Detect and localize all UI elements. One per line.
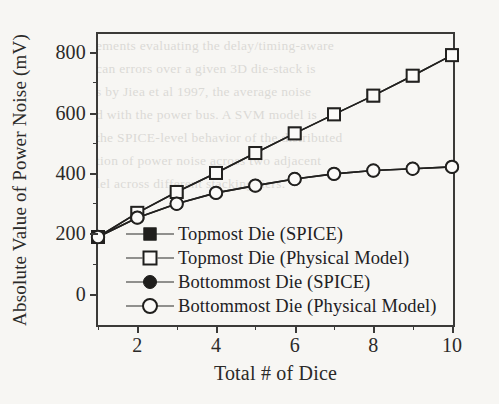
y-axis-tick: [90, 173, 98, 175]
y-axis-tick-label: 200: [55, 222, 86, 245]
data-point-marker: [249, 147, 261, 159]
x-axis-tick-label: 6: [290, 334, 300, 357]
legend-item-label: Topmost Die (Physical Model): [174, 248, 409, 269]
legend-marker-circle-filled: [126, 272, 174, 292]
y-axis-title-text: Absolute Value of Power Noise (mV): [9, 34, 31, 326]
y-axis-tick-label: 800: [55, 41, 86, 64]
data-point-marker: [289, 127, 301, 139]
y-axis-minor-tick: [93, 143, 98, 144]
data-point-marker: [249, 179, 261, 191]
y-axis-tick: [90, 294, 98, 296]
data-point-marker: [210, 167, 222, 179]
data-point-marker: [446, 161, 458, 173]
x-axis-tick: [295, 325, 297, 333]
data-point-marker: [407, 70, 419, 82]
legend-marker-square-filled: [126, 224, 174, 244]
legend-item: Bottommost Die (SPICE): [126, 270, 437, 294]
y-axis-title: Absolute Value of Power Noise (mV): [6, 32, 34, 327]
data-point-marker: [171, 186, 183, 198]
data-point-marker: [367, 90, 379, 102]
x-axis-minor-tick: [413, 325, 414, 330]
data-point-marker: [288, 173, 300, 185]
x-axis-tick-label: 8: [368, 334, 378, 357]
legend-item-label: Topmost Die (SPICE): [174, 224, 343, 245]
data-point-marker: [446, 49, 458, 61]
data-point-marker: [328, 108, 340, 120]
data-point-marker: [210, 187, 222, 199]
legend-marker-circle-open: [126, 296, 174, 316]
y-axis-minor-tick: [93, 203, 98, 204]
y-axis-minor-tick: [93, 264, 98, 265]
legend-marker-shape: [143, 251, 158, 266]
y-axis-tick-label: 0: [76, 282, 86, 305]
y-axis-minor-tick: [93, 82, 98, 83]
legend: Topmost Die (SPICE)Topmost Die (Physical…: [126, 222, 437, 318]
x-axis-tick: [452, 325, 454, 333]
y-axis-tick: [90, 233, 98, 235]
x-axis-tick-label: 4: [211, 334, 221, 357]
legend-item: Topmost Die (SPICE): [126, 222, 437, 246]
legend-marker-shape: [144, 228, 157, 241]
x-axis-tick: [373, 325, 375, 333]
legend-item-label: Bottommost Die (Physical Model): [174, 296, 437, 317]
legend-item: Topmost Die (Physical Model): [126, 246, 437, 270]
legend-marker-shape: [142, 298, 158, 314]
y-axis-tick-label: 400: [55, 161, 86, 184]
y-axis-tick: [90, 113, 98, 115]
series-line: [98, 55, 452, 237]
x-axis-title: Total # of Dice: [96, 362, 455, 385]
legend-item-label: Bottommost Die (SPICE): [174, 272, 370, 293]
data-point-marker: [406, 163, 418, 175]
legend-marker-square-open: [126, 248, 174, 268]
data-point-marker: [170, 198, 182, 210]
x-axis-tick: [137, 325, 139, 333]
data-point-marker: [328, 168, 340, 180]
x-axis-minor-tick: [334, 325, 335, 330]
x-axis-tick: [216, 325, 218, 333]
legend-marker-shape: [143, 275, 157, 289]
data-point-marker: [367, 164, 379, 176]
x-axis-tick-label: 10: [442, 334, 462, 357]
x-axis-minor-tick: [177, 325, 178, 330]
y-axis-tick-label: 600: [55, 101, 86, 124]
y-axis-tick: [90, 52, 98, 54]
x-axis-tick-label: 2: [132, 334, 142, 357]
x-axis-minor-tick: [255, 325, 256, 330]
figure-page: ements evaluating the delay/timing-aware…: [0, 0, 499, 404]
x-axis-minor-tick: [98, 325, 99, 330]
legend-item: Bottommost Die (Physical Model): [126, 294, 437, 318]
